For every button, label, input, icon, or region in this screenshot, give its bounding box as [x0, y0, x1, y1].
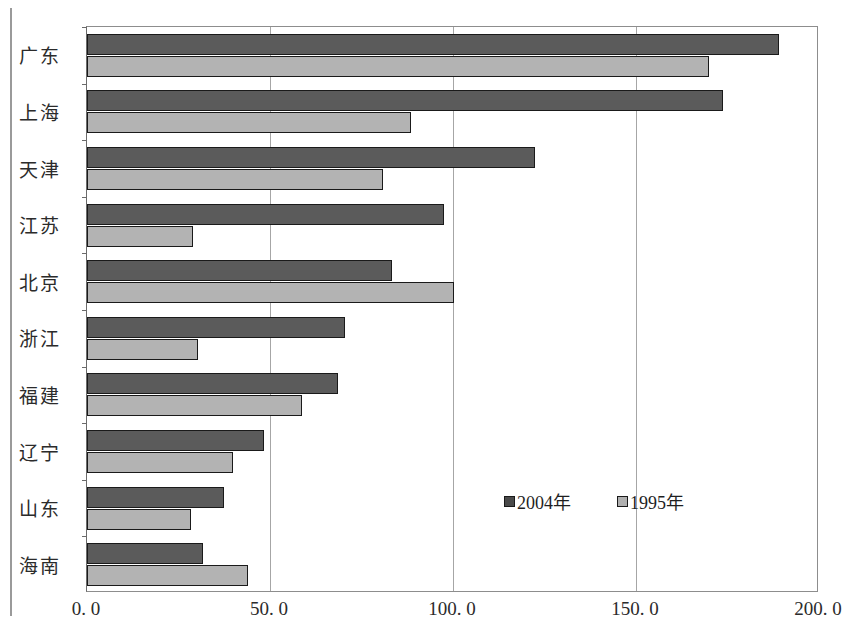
y-axis-tick-2 — [82, 140, 87, 141]
x-tick-label-0: 0. 0 — [36, 598, 136, 620]
bar-1995年-海南 — [87, 565, 248, 586]
category-label-辽宁: 辽宁 — [0, 438, 80, 465]
bar-2004年-北京 — [87, 260, 392, 281]
category-label-北京: 北京 — [0, 268, 80, 295]
bar-2004年-广东 — [87, 34, 779, 55]
category-label-山东: 山东 — [0, 494, 80, 521]
bar-1995年-江苏 — [87, 226, 193, 247]
category-label-福建: 福建 — [0, 381, 80, 408]
bar-1995年-浙江 — [87, 339, 198, 360]
y-axis-tick-0 — [82, 27, 87, 28]
bar-2004年-福建 — [87, 373, 338, 394]
category-label-广东: 广东 — [0, 41, 80, 68]
horizontal-bar-chart: 广东上海天津江苏北京浙江福建辽宁山东海南 0. 050. 0100. 0150.… — [0, 0, 852, 632]
y-axis-tick-5 — [82, 310, 87, 311]
bar-2004年-山东 — [87, 487, 224, 508]
dark-gray-square-icon — [504, 496, 515, 507]
gridline-100 — [453, 27, 454, 591]
category-label-天津: 天津 — [0, 155, 80, 182]
bar-2004年-海南 — [87, 543, 203, 564]
bar-1995年-上海 — [87, 112, 411, 133]
x-tick-label-150: 150. 0 — [585, 598, 685, 620]
bar-1995年-广东 — [87, 56, 709, 77]
legend-item-2004: 2004年 — [504, 488, 571, 514]
bar-2004年-辽宁 — [87, 430, 264, 451]
y-axis-tick-4 — [82, 253, 87, 254]
y-axis-tick-9 — [82, 536, 87, 537]
y-axis-tick-7 — [82, 423, 87, 424]
category-label-海南: 海南 — [0, 551, 80, 578]
legend: 2004年 1995年 — [504, 488, 684, 514]
legend-label-2004: 2004年 — [517, 488, 571, 514]
bar-2004年-天津 — [87, 147, 535, 168]
x-tick-label-100: 100. 0 — [402, 598, 502, 620]
bar-1995年-福建 — [87, 395, 302, 416]
bar-1995年-辽宁 — [87, 452, 233, 473]
light-gray-square-icon — [617, 496, 628, 507]
category-label-江苏: 江苏 — [0, 211, 80, 238]
y-axis-tick-1 — [82, 84, 87, 85]
y-axis-tick-3 — [82, 197, 87, 198]
y-axis-tick-8 — [82, 480, 87, 481]
plot-area — [86, 26, 818, 592]
legend-label-1995: 1995年 — [630, 488, 684, 514]
category-label-上海: 上海 — [0, 98, 80, 125]
bar-1995年-北京 — [87, 282, 454, 303]
bar-2004年-上海 — [87, 90, 723, 111]
x-tick-label-200: 200. 0 — [768, 598, 852, 620]
bar-2004年-江苏 — [87, 204, 444, 225]
bar-1995年-天津 — [87, 169, 383, 190]
legend-item-1995: 1995年 — [617, 488, 684, 514]
chart-figure: 广东上海天津江苏北京浙江福建辽宁山东海南 0. 050. 0100. 0150.… — [0, 0, 852, 632]
x-tick-label-50: 50. 0 — [219, 598, 319, 620]
bar-2004年-浙江 — [87, 317, 345, 338]
bar-1995年-山东 — [87, 509, 191, 530]
y-axis-tick-6 — [82, 367, 87, 368]
category-label-浙江: 浙江 — [0, 324, 80, 351]
